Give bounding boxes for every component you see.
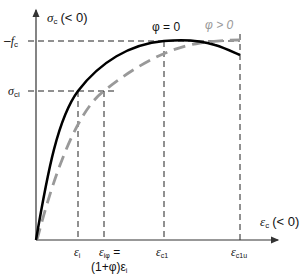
curve-phi-positive	[37, 40, 240, 240]
tick-eps-iphi: εiφ =	[99, 245, 120, 260]
tick-eps-iphi-formula: (1+φ)εi	[91, 260, 128, 274]
y-axis-label: σc(< 0)	[47, 10, 88, 26]
curve-phi-zero	[36, 40, 240, 240]
tick-eps-c1: εc1	[156, 245, 168, 259]
stress-strain-diagram: σc(< 0) –fc σci φ = 0 φ > 0 εc(< 0) εi ε…	[0, 0, 303, 274]
tick-eps-c1u: εc1u	[231, 245, 247, 259]
label-phi-zero: φ = 0	[152, 20, 180, 34]
tick-neg-fc: –fc	[4, 34, 18, 49]
label-phi-positive: φ > 0	[205, 18, 234, 32]
tick-eps-i: εi	[74, 245, 81, 259]
tick-sigma-ci: σci	[8, 84, 20, 99]
guide-lines	[28, 34, 240, 240]
x-axis-label: εc(< 0)	[260, 214, 299, 230]
